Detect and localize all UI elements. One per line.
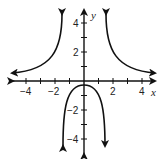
x-tick-label: 2 <box>110 86 116 97</box>
left-outer-branch <box>12 14 62 73</box>
right-outer-branch <box>106 14 155 73</box>
rational-function-graph: −4 −2 2 4 x 4 2 −2 −4 y <box>0 0 162 159</box>
x-tick-label: 4 <box>139 86 145 97</box>
y-tick-label: 2 <box>73 47 79 58</box>
y-tick-label: −4 <box>67 134 79 145</box>
y-tick-label: −2 <box>67 105 79 116</box>
x-tick-label: −2 <box>48 86 60 97</box>
x-tick-label: −4 <box>20 86 32 97</box>
x-axis-label: x <box>150 86 156 98</box>
y-tick-label: 4 <box>73 18 79 29</box>
y-axis-label: y <box>90 9 96 21</box>
